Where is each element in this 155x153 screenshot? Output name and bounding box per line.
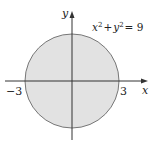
tick-label-neg3: −3 bbox=[6, 85, 22, 98]
equation-label: x2+y2= 9 bbox=[92, 21, 143, 33]
circle-diagram: y x −3 3 x2+y2= 9 bbox=[0, 0, 155, 153]
x-axis-arrow-icon bbox=[141, 79, 148, 84]
diagram-svg: y x −3 3 x2+y2= 9 bbox=[0, 0, 155, 153]
y-axis-arrow-icon bbox=[70, 11, 75, 18]
y-axis-label: y bbox=[61, 7, 69, 20]
tick-label-3: 3 bbox=[120, 85, 127, 98]
x-axis-label: x bbox=[142, 84, 149, 97]
